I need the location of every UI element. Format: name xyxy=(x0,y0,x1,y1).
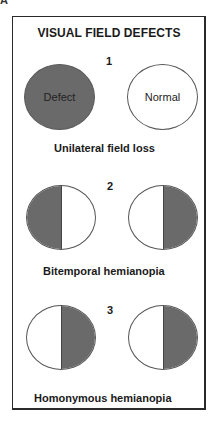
section-1-number: 1 xyxy=(106,55,112,67)
vertical-meridian xyxy=(61,186,62,249)
section-3-right-eye-field xyxy=(128,305,198,370)
section-1-caption: Unilateral field loss xyxy=(54,142,155,154)
right-half-defect xyxy=(163,186,197,249)
corner-label: A xyxy=(0,0,7,6)
section-1-right-eye-field: Normal xyxy=(127,64,198,130)
defect-label: Defect xyxy=(25,91,94,103)
section-2-right-eye-field xyxy=(128,185,198,250)
right-half-defect xyxy=(163,306,197,369)
vertical-meridian xyxy=(61,306,62,369)
figure-title: VISUAL FIELD DEFECTS xyxy=(0,26,218,40)
right-half-defect xyxy=(61,306,95,369)
section-3-caption: Homonymous hemianopia xyxy=(34,392,172,404)
section-2-caption: Bitemporal hemianopia xyxy=(43,265,165,277)
left-half-defect xyxy=(27,186,61,249)
section-3-left-eye-field xyxy=(26,305,96,370)
vertical-meridian xyxy=(163,186,164,249)
section-1-left-eye-field: Defect xyxy=(24,64,95,130)
section-3-number: 3 xyxy=(107,304,113,316)
section-2-left-eye-field xyxy=(26,185,96,250)
section-2-number: 2 xyxy=(107,180,113,192)
vertical-meridian xyxy=(163,306,164,369)
normal-label: Normal xyxy=(128,91,197,103)
